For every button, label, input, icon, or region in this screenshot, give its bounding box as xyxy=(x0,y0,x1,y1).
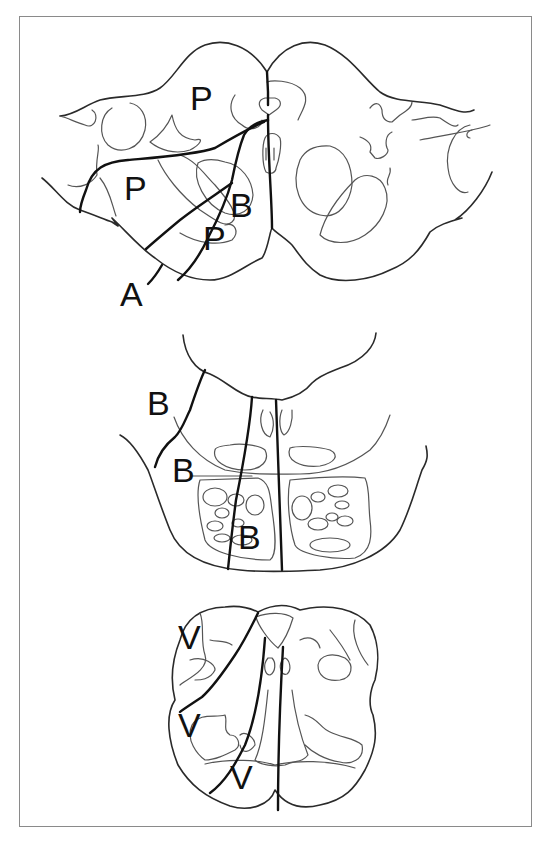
label-b-middle-2: B xyxy=(172,453,195,487)
label-a-upper: A xyxy=(120,277,143,311)
middle-section xyxy=(120,333,427,572)
label-v-lower-3: V xyxy=(230,760,253,794)
upper-section xyxy=(42,42,492,284)
label-p-upper-3: P xyxy=(203,221,226,255)
label-b-upper: B xyxy=(230,188,253,222)
brainstem-sections-drawing xyxy=(0,0,550,846)
label-b-middle-3: B xyxy=(238,520,261,554)
label-p-upper-1: P xyxy=(190,81,213,115)
label-v-lower-1: V xyxy=(178,620,201,654)
label-p-upper-2: P xyxy=(124,171,147,205)
label-v-lower-2: V xyxy=(178,708,201,742)
label-b-middle-1: B xyxy=(147,386,170,420)
